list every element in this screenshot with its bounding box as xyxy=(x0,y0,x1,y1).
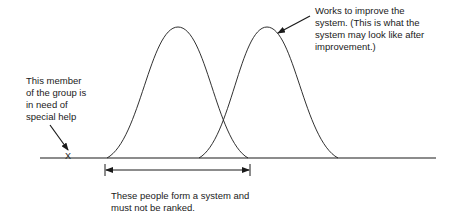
system-not-ranked-label: These people form a system and must not … xyxy=(111,190,311,214)
member-needs-help-label: This member of the group is in need of s… xyxy=(26,75,116,123)
improve-pointer-arrow xyxy=(278,16,310,33)
outlier-x-marker: X xyxy=(65,150,71,162)
works-to-improve-label: Works to improve the system. (This is wh… xyxy=(315,5,455,53)
current-system-curve xyxy=(107,27,248,158)
member-pointer-arrow xyxy=(50,125,68,150)
